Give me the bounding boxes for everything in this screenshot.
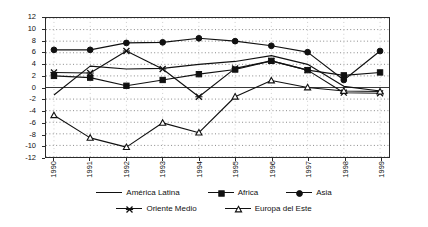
chart-legend: América LatinaAfricaAsia Oriente MedioEu… (0, 188, 428, 220)
x-axis-tick-mark (199, 158, 200, 161)
y-axis-tick-mark (42, 29, 45, 30)
y-axis-tick-label: 4 (10, 60, 36, 68)
y-axis-tick-mark (42, 17, 45, 18)
x-axis-tick-label: 1999 (377, 161, 386, 178)
legend-swatch (116, 204, 142, 213)
legend-item[interactable]: Africa (208, 188, 258, 197)
y-axis-tick-mark (42, 135, 45, 136)
y-axis-tick-label: -6 (10, 119, 36, 127)
y-axis-tick-label: -8 (10, 131, 36, 139)
y-axis-tick-label: 2 (10, 72, 36, 80)
y-axis-tick-mark (42, 123, 45, 124)
y-axis-tick-mark (42, 99, 45, 100)
x-axis-tick-mark (235, 158, 236, 161)
legend-item-label: América Latina (126, 188, 179, 197)
y-axis-tick-mark (42, 64, 45, 65)
legend-item[interactable]: Oriente Medio (116, 204, 196, 213)
square-marker-icon (217, 189, 226, 198)
x-axis-tick-label: 1990 (49, 161, 58, 178)
chart-container: 121086420-2-4-6-8-10-12 1990199119921993… (0, 0, 428, 227)
circle-marker-icon (295, 189, 304, 198)
x-axis-tick-mark (89, 158, 90, 161)
x-axis-tick-label: 1998 (341, 161, 350, 178)
x-axis-tick-mark (162, 158, 163, 161)
x-axis-tick-mark (381, 158, 382, 161)
y-axis-tick-label: 6 (10, 48, 36, 56)
y-axis-tick-mark (42, 111, 45, 112)
legend-item-label: Oriente Medio (146, 204, 196, 213)
y-axis-tick-label: 12 (10, 13, 36, 21)
x-axis-tick-label: 1993 (158, 161, 167, 178)
y-axis-tick-label: -10 (10, 142, 36, 150)
x-axis-tick-mark (126, 158, 127, 161)
legend-item-label: Asia (316, 188, 332, 197)
x-axis-tick-label: 1996 (268, 161, 277, 178)
legend-item[interactable]: Europa del Este (225, 204, 312, 213)
legend-row-primary: América LatinaAfricaAsia (0, 188, 428, 197)
y-axis-tick-mark (42, 88, 45, 89)
y-axis-tick-label: 8 (10, 37, 36, 45)
x-axis-tick-label: 1997 (304, 161, 313, 178)
plot-area (45, 17, 390, 158)
triangle-marker-icon (234, 205, 243, 214)
x-axis-tick-label: 1992 (122, 161, 131, 178)
x-axis-tick-label: 1994 (195, 161, 204, 178)
legend-item[interactable]: Asia (286, 188, 332, 197)
y-axis-tick-mark (42, 158, 45, 159)
x-axis-tick-mark (345, 158, 346, 161)
y-axis-tick-mark (42, 146, 45, 147)
legend-swatch (208, 188, 234, 197)
y-axis-tick-label: -4 (10, 107, 36, 115)
legend-swatch (225, 204, 251, 213)
y-axis-tick-label: 10 (10, 25, 36, 33)
y-axis-tick-mark (42, 76, 45, 77)
y-axis-tick-mark (42, 41, 45, 42)
x-axis-tick-mark (272, 158, 273, 161)
legend-swatch (286, 188, 312, 197)
y-axis-tick-label: -12 (10, 154, 36, 162)
x-axis-tick-label: 1995 (231, 161, 240, 178)
y-axis-tick-label: 0 (10, 84, 36, 92)
x-marker-icon (125, 205, 134, 214)
y-axis-tick-label: -2 (10, 95, 36, 103)
y-axis-tick-mark (42, 52, 45, 53)
legend-row-secondary: Oriente MedioEuropa del Este (0, 204, 428, 213)
x-axis-tick-mark (308, 158, 309, 161)
x-axis-tick-label: 1991 (85, 161, 94, 178)
legend-item-label: Europa del Este (255, 204, 312, 213)
legend-item-label: Africa (238, 188, 258, 197)
data-series-layer (46, 18, 389, 157)
x-axis-tick-mark (53, 158, 54, 161)
legend-swatch (96, 188, 122, 197)
legend-item[interactable]: América Latina (96, 188, 179, 197)
